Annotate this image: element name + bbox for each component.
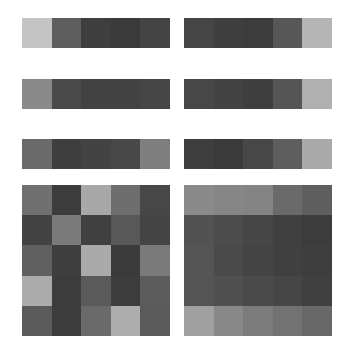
heatmap-cell [302, 139, 332, 169]
heatmap-cell [111, 185, 141, 215]
heatmap-cell [111, 139, 141, 169]
heatmap-cell [22, 79, 52, 109]
heatmap-cell [22, 306, 52, 336]
heatmap-cell [81, 276, 111, 306]
heatmap-cell [111, 18, 141, 48]
heatmap-cell [243, 185, 273, 215]
heatmap-cell [140, 18, 170, 48]
heatmap-cell [214, 139, 244, 169]
heatmap-cell [243, 139, 273, 169]
heatmap-panel-grid-left [22, 185, 170, 336]
heatmap-cell [302, 306, 332, 336]
heatmap-cell [22, 185, 52, 215]
heatmap-cell [302, 185, 332, 215]
heatmap-cell [52, 215, 82, 245]
heatmap-cell [214, 215, 244, 245]
heatmap-cell [52, 185, 82, 215]
heatmap-cell [52, 306, 82, 336]
heatmap-cell [81, 306, 111, 336]
heatmap-cell [52, 18, 82, 48]
heatmap-cell [140, 276, 170, 306]
heatmap-panel-grid-right [184, 185, 332, 336]
heatmap-cell [184, 245, 214, 275]
heatmap-cell [140, 306, 170, 336]
heatmap-cell [22, 276, 52, 306]
heatmap-cell [243, 79, 273, 109]
heatmap-cell [273, 185, 303, 215]
heatmap-panel-strip-row2-right [184, 79, 332, 109]
heatmap-cell [273, 139, 303, 169]
heatmap-cell [52, 79, 82, 109]
heatmap-cell [22, 139, 52, 169]
heatmap-cell [22, 215, 52, 245]
heatmap-cell [214, 79, 244, 109]
heatmap-cell [184, 276, 214, 306]
heatmap-panel-strip-row1-right [184, 18, 332, 48]
heatmap-cell [302, 276, 332, 306]
heatmap-cell [273, 306, 303, 336]
heatmap-cell [184, 79, 214, 109]
heatmap-cell [302, 245, 332, 275]
heatmap-cell [140, 245, 170, 275]
heatmap-cell [52, 245, 82, 275]
heatmap-cell [243, 18, 273, 48]
heatmap-cell [111, 306, 141, 336]
heatmap-cell [214, 306, 244, 336]
heatmap-cell [302, 215, 332, 245]
heatmap-cell [273, 79, 303, 109]
heatmap-cell [302, 18, 332, 48]
heatmap-cell [81, 245, 111, 275]
heatmap-cell [140, 139, 170, 169]
heatmap-cell [273, 245, 303, 275]
heatmap-cell [214, 18, 244, 48]
heatmap-cell [243, 215, 273, 245]
heatmap-cell [111, 276, 141, 306]
heatmap-cell [81, 215, 111, 245]
heatmap-cell [52, 276, 82, 306]
heatmap-cell [184, 215, 214, 245]
heatmap-cell [111, 79, 141, 109]
heatmap-cell [81, 18, 111, 48]
heatmap-cell [184, 18, 214, 48]
heatmap-cell [214, 185, 244, 215]
heatmap-cell [22, 245, 52, 275]
heatmap-cell [243, 245, 273, 275]
heatmap-cell [184, 139, 214, 169]
heatmap-cell [111, 215, 141, 245]
heatmap-cell [184, 185, 214, 215]
heatmap-cell [273, 215, 303, 245]
heatmap-cell [243, 276, 273, 306]
heatmap-cell [214, 276, 244, 306]
heatmap-cell [111, 245, 141, 275]
heatmap-cell [81, 185, 111, 215]
heatmap-panel-strip-row3-right [184, 139, 332, 169]
heatmap-cell [273, 18, 303, 48]
heatmap-cell [140, 79, 170, 109]
heatmap-cell [81, 139, 111, 169]
heatmap-cell [243, 306, 273, 336]
heatmap-cell [140, 185, 170, 215]
heatmap-cell [302, 79, 332, 109]
heatmap-cell [140, 215, 170, 245]
heatmap-cell [22, 18, 52, 48]
heatmap-cell [214, 245, 244, 275]
heatmap-panel-strip-row1-left [22, 18, 170, 48]
heatmap-cell [52, 139, 82, 169]
heatmap-cell [273, 276, 303, 306]
heatmap-panel-strip-row3-left [22, 139, 170, 169]
heatmap-cell [184, 306, 214, 336]
heatmap-panel-strip-row2-left [22, 79, 170, 109]
heatmap-cell [81, 79, 111, 109]
